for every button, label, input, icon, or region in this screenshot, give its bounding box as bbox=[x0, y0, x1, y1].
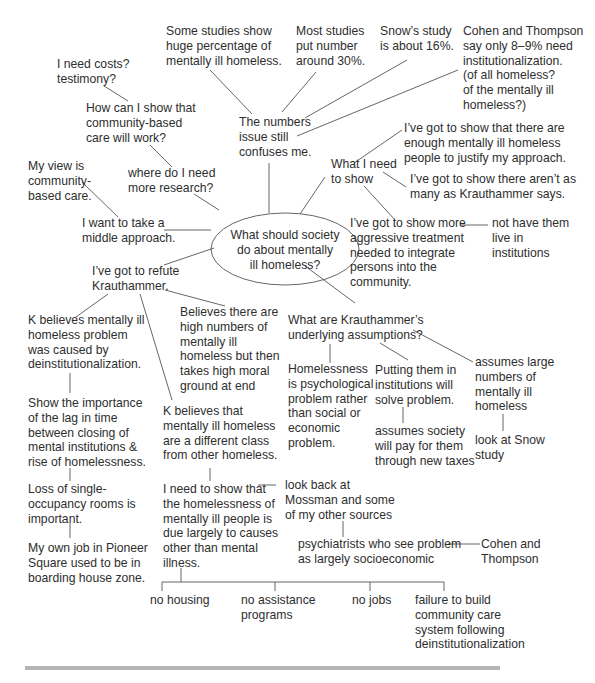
node-need-show-causes: I need to show that the homelessness of … bbox=[163, 482, 278, 571]
node-k-different-class: K believes that mentally ill homeless ar… bbox=[163, 404, 277, 463]
node-mossman: look back at Mossman and some of my othe… bbox=[285, 478, 395, 522]
node-costs-testimony: I need costs? testimony? bbox=[57, 57, 130, 87]
node-enough-mentally-ill: I’ve got to show that there are enough m… bbox=[404, 121, 566, 165]
node-where-research: where do I need more research? bbox=[128, 166, 215, 196]
node-no-assistance: no assistance programs bbox=[241, 593, 316, 623]
node-refute-krauthammer: I’ve got to refute Krauthammer. bbox=[92, 264, 179, 294]
node-society-pay: assumes society will pay for them throug… bbox=[375, 424, 475, 468]
node-cohen-thompson: Cohen and Thompson bbox=[481, 537, 541, 567]
node-how-show: How can I show that community-based care… bbox=[86, 101, 196, 145]
node-putting-institutions: Putting them in institutions will solve … bbox=[375, 363, 456, 407]
node-k-deinstitutionalization: K believes mentally ill homeless problem… bbox=[28, 313, 145, 372]
node-psychiatrists: psychiatrists who see problem as largely… bbox=[298, 537, 461, 567]
node-no-housing: no housing bbox=[150, 593, 210, 608]
node-numbers-issue: The numbers issue still confuses me. bbox=[239, 115, 311, 159]
node-not-institutions: not have them live in institutions bbox=[492, 216, 569, 260]
node-lag-in-time: Show the importance of the lag in time b… bbox=[28, 396, 146, 470]
node-psychological-problem: Homelessness is psychological problem ra… bbox=[288, 362, 373, 451]
node-most-studies: Most studies put number around 30%. bbox=[296, 24, 365, 68]
node-cohen-thompson-claim: Cohen and Thompson say only 8–9% need in… bbox=[463, 24, 583, 113]
node-my-view: My view is community- based care. bbox=[28, 159, 92, 203]
node-no-jobs: no jobs bbox=[352, 593, 391, 608]
node-pioneer-square: My own job in Pioneer Square used to be … bbox=[28, 541, 148, 585]
node-assumes-large: assumes large numbers of mentally ill ho… bbox=[475, 355, 554, 414]
node-middle-approach: I want to take a middle approach. bbox=[82, 216, 176, 246]
node-what-i-need: What I need to show bbox=[331, 157, 397, 187]
footer-rule bbox=[25, 666, 500, 670]
node-single-occupancy: Loss of single- occupancy rooms is impor… bbox=[28, 482, 136, 526]
cluster-diagram: What should society do about mentally il… bbox=[0, 0, 595, 683]
node-snow-study: Snow’s study is about 16%. bbox=[380, 24, 454, 54]
node-arent-as-many: I’ve got to show there aren’t as many as… bbox=[410, 172, 576, 202]
center-question: What should society do about mentally il… bbox=[222, 228, 348, 272]
node-aggressive-treatment: I’ve got to show more aggressive treatme… bbox=[350, 216, 466, 290]
node-look-snow: look at Snow study bbox=[475, 433, 545, 463]
node-krauthammer-assumptions: What are Krauthammer’s underlying assump… bbox=[288, 313, 424, 343]
node-believes-high-numbers: Believes there are high numbers of menta… bbox=[180, 305, 280, 394]
node-studies-huge: Some studies show huge percentage of men… bbox=[166, 24, 282, 68]
node-failure-community-care: failure to build community care system f… bbox=[415, 593, 525, 652]
